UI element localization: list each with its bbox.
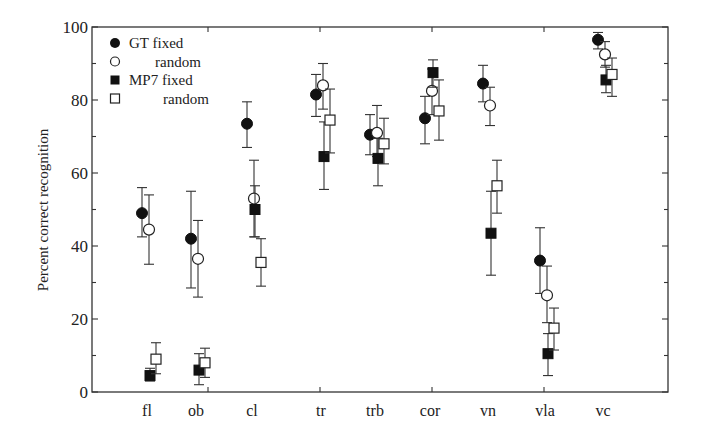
x-tick-label: ob [188, 402, 204, 419]
y-tick-label: 80 [71, 91, 88, 110]
filled-square-marker [145, 371, 155, 381]
x-tick-label: vla [535, 402, 555, 419]
open-square-icon [111, 94, 120, 103]
legend-item: GT fixed [110, 35, 184, 51]
y-tick-label: 20 [71, 310, 88, 329]
series-gt-fixed [137, 32, 604, 293]
x-tick-label: tr [316, 402, 326, 419]
y-tick-label: 0 [80, 383, 89, 402]
open-circle-marker [193, 253, 204, 264]
y-tick-label: 100 [63, 18, 89, 37]
open-square-marker [492, 181, 502, 191]
filled-circle-icon [110, 38, 120, 48]
open-square-marker [256, 257, 266, 267]
open-circle-marker [249, 193, 260, 204]
chart: 020406080100 flobcltrtrbcorvnvlavc GT fi… [0, 0, 704, 441]
legend-label: GT fixed [129, 35, 184, 51]
legend-item: random [111, 54, 202, 70]
open-square-marker [549, 323, 559, 333]
legend-item: MP7 fixed [111, 72, 194, 88]
filled-circle-marker [311, 89, 322, 100]
legend-label: MP7 fixed [129, 72, 193, 88]
filled-square-marker [486, 228, 496, 238]
y-axis-label: Percent correct recognition [35, 128, 51, 291]
filled-square-marker [428, 68, 438, 78]
open-circle-marker [372, 127, 383, 138]
filled-circle-marker [593, 34, 604, 45]
series-mp7-fixed [145, 60, 611, 385]
open-square-marker [607, 69, 617, 79]
legend-label: random [163, 91, 209, 107]
x-tick-label: vc [595, 402, 610, 419]
open-circle-icon [111, 57, 120, 66]
filled-circle-marker [535, 255, 546, 266]
filled-square-marker [373, 153, 383, 163]
open-square-marker [379, 139, 389, 149]
open-square-marker [325, 115, 335, 125]
data-points [137, 32, 618, 384]
filled-circle-marker [186, 233, 197, 244]
open-circle-marker [542, 290, 553, 301]
x-tick-label: trb [366, 402, 384, 419]
filled-circle-marker [137, 208, 148, 219]
legend-item: random [111, 91, 210, 107]
x-axis: flobcltrtrbcorvnvlavc [142, 27, 610, 419]
x-tick-label: cl [246, 402, 258, 419]
x-tick-label: vn [480, 402, 496, 419]
open-square-marker [200, 358, 210, 368]
y-tick-label: 40 [71, 237, 88, 256]
legend-label: random [155, 54, 201, 70]
open-square-marker [434, 106, 444, 116]
filled-square-marker [250, 205, 260, 215]
filled-circle-marker [242, 118, 253, 129]
x-tick-label: cor [420, 402, 441, 419]
open-circle-marker [485, 100, 496, 111]
legend: GT fixedrandomMP7 fixedrandom [110, 35, 209, 107]
open-square-marker [151, 354, 161, 364]
x-tick-label: fl [142, 402, 152, 419]
series-mp7-random [151, 58, 617, 377]
y-tick-label: 60 [71, 164, 88, 183]
filled-square-icon [111, 76, 120, 85]
open-circle-marker [144, 224, 155, 235]
